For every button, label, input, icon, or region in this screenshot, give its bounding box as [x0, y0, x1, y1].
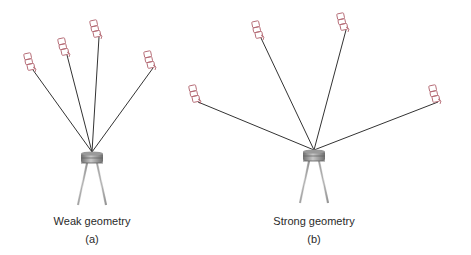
satellite-icon [189, 85, 201, 104]
satellite-icon [252, 21, 264, 40]
panel-a [24, 20, 156, 205]
caption-strong-geometry: Strong geometry [273, 215, 354, 227]
sublabel-b: (b) [307, 233, 320, 245]
satellite-icon [58, 38, 70, 57]
satellite-icon [429, 85, 441, 104]
signal-ray [198, 102, 314, 150]
caption-weak-geometry: Weak geometry [54, 215, 131, 227]
gps-receiver-tripod-icon [300, 150, 328, 204]
satellite-icon [144, 51, 156, 70]
sublabel-a: (a) [85, 233, 98, 245]
signal-ray [92, 37, 99, 152]
signal-ray [92, 68, 153, 152]
satellite-icon [90, 20, 102, 39]
signal-ray [67, 55, 92, 152]
signal-ray [33, 70, 92, 152]
signal-ray [261, 38, 314, 150]
signal-ray [314, 30, 346, 150]
satellite-icon [24, 53, 36, 72]
satellite-icon [337, 13, 349, 32]
gps-receiver-tripod-icon [78, 152, 106, 206]
panel-b [189, 13, 441, 203]
signal-ray [314, 102, 438, 150]
